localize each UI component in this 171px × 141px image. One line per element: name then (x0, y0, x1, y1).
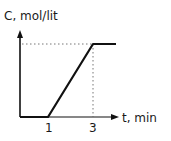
y-axis-label: C, mol/lit (4, 9, 58, 23)
y-axis-arrow-icon (17, 30, 23, 38)
x-tick-1: 1 (45, 121, 53, 135)
concentration-curve (20, 44, 116, 117)
x-axis-arrow-icon (111, 114, 119, 120)
x-tick-3: 3 (89, 121, 97, 135)
concentration-time-chart: C, mol/lit t, min 1 3 (0, 0, 171, 141)
x-axis-label: t, min (122, 111, 157, 125)
y-axis (17, 30, 23, 117)
